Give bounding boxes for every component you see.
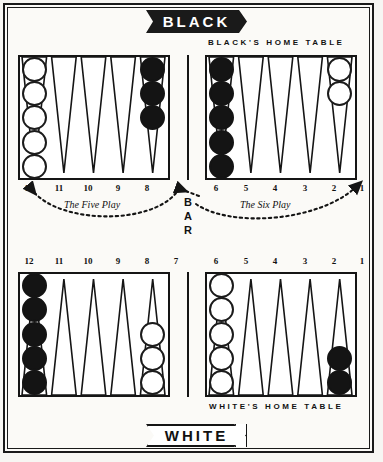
point-number-top-6: 6	[207, 183, 225, 193]
ribbon-notch-icon	[234, 424, 246, 447]
point-number-top-10: 10	[79, 183, 97, 193]
point-number-top-3: 3	[296, 183, 314, 193]
checker-white[interactable]	[22, 57, 47, 82]
checker-black[interactable]	[209, 57, 234, 82]
checker-black[interactable]	[22, 370, 47, 395]
ribbon-notch-icon	[239, 10, 247, 33]
black-home-table-caption: BLACK'S HOME TABLE	[208, 38, 345, 47]
black-player-banner: BLACK	[146, 10, 247, 33]
point-number-bottom-10: 10	[79, 256, 97, 266]
point-number-top-11: 11	[50, 183, 68, 193]
checker-black[interactable]	[22, 273, 47, 298]
point-number-bottom-9: 9	[109, 256, 127, 266]
white-banner-label: WHITE	[165, 427, 228, 444]
checker-white[interactable]	[209, 370, 234, 395]
point-number-top-2: 2	[325, 183, 343, 193]
point-number-bottom-2: 2	[325, 256, 343, 266]
bar-divider-top	[187, 55, 189, 180]
six-play-annotation: The Six Play	[240, 199, 291, 210]
checker-black[interactable]	[209, 81, 234, 106]
checker-white[interactable]	[209, 273, 234, 298]
point-number-bottom-12: 12	[20, 256, 38, 266]
point-number-top-1: 1	[353, 183, 371, 193]
point-number-bottom-11: 11	[50, 256, 68, 266]
point-number-bottom-4: 4	[266, 256, 284, 266]
point-number-top-9: 9	[109, 183, 127, 193]
point-number-bottom-8: 8	[138, 256, 156, 266]
checker-black[interactable]	[22, 322, 47, 347]
backgammon-diagram: BLACK WHITE BLACK'S HOME TABLE WHITE'S H…	[0, 0, 383, 462]
white-player-banner: WHITE	[146, 424, 247, 447]
checker-white[interactable]	[22, 130, 47, 155]
five-play-annotation: The Five Play	[64, 199, 120, 210]
white-home-table-caption: WHITE'S HOME TABLE	[209, 402, 343, 411]
point-number-top-12: 12	[20, 183, 38, 193]
point-number-top-4: 4	[266, 183, 284, 193]
point-number-top-5: 5	[237, 183, 255, 193]
bar-divider-bottom	[187, 272, 189, 397]
checker-white[interactable]	[209, 346, 234, 371]
checker-white[interactable]	[140, 322, 165, 347]
point-number-bottom-6: 6	[207, 256, 225, 266]
checker-black[interactable]	[209, 130, 234, 155]
checker-black[interactable]	[327, 346, 352, 371]
checker-black[interactable]	[209, 154, 234, 179]
black-banner-label: BLACK	[163, 13, 231, 30]
checker-white[interactable]	[140, 346, 165, 371]
point-number-bottom-3: 3	[296, 256, 314, 266]
point-number-bottom-5: 5	[237, 256, 255, 266]
checker-white[interactable]	[22, 154, 47, 179]
point-number-top-8: 8	[138, 183, 156, 193]
checker-white[interactable]	[209, 322, 234, 347]
checker-black[interactable]	[22, 346, 47, 371]
bar-label: BAR	[182, 196, 194, 238]
checker-white[interactable]	[22, 81, 47, 106]
point-number-bottom-7: 7	[167, 256, 185, 266]
point-number-bottom-1: 1	[353, 256, 371, 266]
